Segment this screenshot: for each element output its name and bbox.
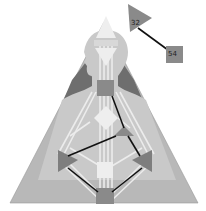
gate-32-label: 32 (131, 19, 140, 27)
bodygraph-diagram: 32 54 (0, 0, 206, 211)
gate-32-54-line (138, 28, 168, 50)
root-center (96, 188, 114, 204)
gate-32-triangle (128, 4, 152, 32)
head-center (96, 16, 116, 38)
throat-center (97, 80, 114, 96)
bodygraph-svg: 32 54 (0, 0, 206, 211)
sacral-center (97, 162, 113, 178)
ajna-bar (94, 40, 118, 46)
gate-54-label: 54 (168, 50, 177, 58)
